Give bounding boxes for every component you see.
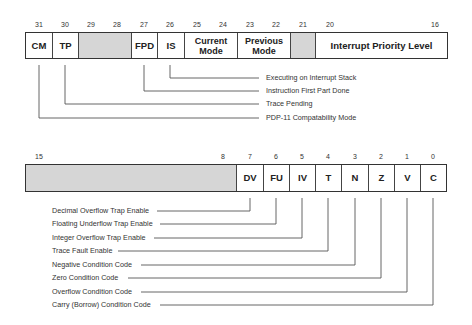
label-integer-overflow-trap-enable: Integer Overflow Trap Enable [52, 233, 146, 242]
leader-line-dv [157, 198, 250, 211]
leader-line-iv [154, 198, 302, 238]
leader-line-cm [39, 65, 259, 118]
label-carry-borrow-condition-code: Carry (Borrow) Condition Code [52, 300, 151, 309]
processor-status-longword-diagram: 31 30 29 28 27 26 25 24 23 22 21 20 16 C… [0, 0, 472, 325]
label-instruction-first-part-done: Instruction First Part Done [266, 86, 350, 95]
leader-line-is [170, 65, 259, 78]
label-overflow-condition-code: Overflow Condition Code [52, 287, 132, 296]
label-executing-on-interrupt-stack: Executing on Interrupt Stack [266, 73, 356, 82]
leader-line-c [160, 198, 433, 305]
label-floating-underflow-trap-enable: Floating Underflow Trap Enable [52, 219, 153, 228]
label-trace-fault-enable: Trace Fault Enable [52, 246, 112, 255]
leader-line-tp [65, 65, 259, 104]
leader-line-n [141, 198, 355, 265]
label-decimal-overflow-trap-enable: Decimal Overflow Trap Enable [52, 206, 149, 215]
label-trace-pending: Trace Pending [266, 99, 312, 108]
label-negative-condition-code: Negative Condition Code [52, 260, 132, 269]
label-pdp11-compatibility-mode: PDP-11 Compatability Mode [266, 113, 356, 122]
label-zero-condition-code: Zero Condition Code [52, 273, 118, 282]
